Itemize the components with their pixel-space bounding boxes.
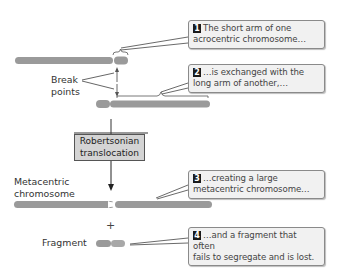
metacentric-label: Metacentric chromosome	[14, 176, 75, 199]
callout-2: 2…is exchanged with the long arm of anot…	[188, 64, 325, 93]
callout-4: 4…and a fragment that often fails to seg…	[188, 227, 325, 266]
callout-3: 3…creating a large metacentric chromosom…	[188, 170, 325, 199]
callout-3-line1: …creating a large	[203, 173, 278, 183]
arrow-down-icon	[108, 184, 114, 191]
process-label-line2: translocation	[75, 148, 144, 160]
callout-4-line1: …and a fragment that often	[193, 230, 296, 251]
plus-sign: +	[106, 219, 115, 232]
bracket-long-arm	[117, 92, 208, 98]
callout-1: 1The short arm of one acrocentric chromo…	[188, 20, 325, 49]
step-badge-3: 3	[193, 174, 201, 183]
metacentric-label-line2: chromosome	[14, 188, 75, 200]
leader-line-3	[156, 185, 188, 199]
step-badge-2: 2	[193, 68, 201, 77]
step-badge-4: 4	[193, 231, 201, 240]
leader-line-2	[161, 83, 188, 94]
break-label-line1: Break	[51, 74, 80, 86]
robertsonian-translocation-box: Robertsonian translocation	[74, 134, 145, 161]
callout-3-line2: metacentric chromosome…	[193, 184, 310, 194]
acrocentric-chromosome-2	[96, 100, 210, 108]
break-point-arrows	[82, 67, 119, 97]
metacentric-label-line1: Metacentric	[14, 176, 75, 188]
break-label-line2: points	[51, 86, 80, 98]
leader-line-4	[130, 238, 188, 245]
fragment-label: Fragment	[42, 237, 87, 249]
callout-1-line2: acrocentric chromosome…	[193, 34, 306, 44]
step-badge-1: 1	[193, 24, 201, 33]
break-points-label: Break points	[51, 74, 80, 97]
process-label-line1: Robertsonian	[75, 136, 144, 148]
callout-4-line2: fails to segregate and is lost.	[193, 252, 314, 262]
callout-2-line2: long arm of another,…	[193, 78, 288, 88]
callout-2-line1: …is exchanged with the	[203, 67, 304, 77]
leader-line-1	[121, 37, 188, 50]
callout-1-line1: The short arm of one	[203, 23, 291, 33]
metacentric-chromosome	[14, 201, 212, 208]
fragment-chromosome	[96, 240, 125, 247]
acrocentric-chromosome-1	[15, 57, 128, 65]
